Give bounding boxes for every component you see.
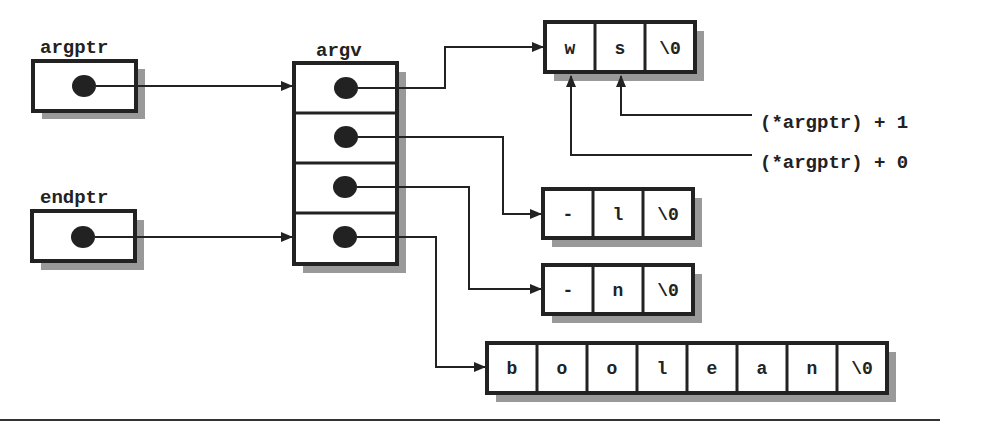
annotation-argptr-plus-0: (*argptr) + 0	[760, 152, 908, 174]
endptr-variable: endptr	[32, 187, 144, 270]
char-cell: o	[557, 359, 568, 379]
char-cell: l	[657, 359, 668, 379]
char-cell: b	[507, 359, 518, 379]
argptr-label: argptr	[40, 37, 108, 59]
argptr-variable: argptr	[33, 37, 145, 119]
arrow-annotation-plus1	[621, 76, 752, 115]
endptr-label: endptr	[40, 187, 108, 209]
string-boolean: b o o l e a n \0	[487, 343, 896, 402]
string-dash-n: - n \0	[543, 265, 702, 323]
char-cell: n	[807, 359, 818, 379]
char-cell: \0	[851, 359, 873, 379]
char-cell: o	[607, 359, 618, 379]
argv-array: argv	[294, 40, 406, 273]
argv-3-dot	[333, 226, 357, 248]
annotation-argptr-plus-1: (*argptr) + 1	[760, 112, 908, 134]
char-cell: w	[565, 39, 576, 59]
char-cell: -	[563, 281, 574, 301]
argptr-pointer-dot	[72, 75, 96, 97]
char-cell: \0	[657, 281, 679, 301]
char-cell: n	[613, 281, 624, 301]
argv-0-dot	[334, 77, 358, 99]
char-cell: \0	[659, 39, 681, 59]
char-cell: l	[613, 205, 624, 225]
char-cell: -	[563, 205, 574, 225]
string-ws: w s \0	[545, 22, 704, 81]
endptr-pointer-dot	[71, 226, 95, 248]
argv-2-dot	[333, 176, 357, 198]
char-cell: s	[615, 39, 626, 59]
string-dash-l: - l \0	[543, 189, 702, 247]
argv-1-dot	[334, 126, 358, 148]
char-cell: e	[707, 359, 718, 379]
char-cell: \0	[657, 205, 679, 225]
argv-label: argv	[316, 40, 362, 62]
argv-pointer-diagram: argptr endptr argv w s \0	[0, 0, 985, 426]
char-cell: a	[757, 359, 768, 379]
